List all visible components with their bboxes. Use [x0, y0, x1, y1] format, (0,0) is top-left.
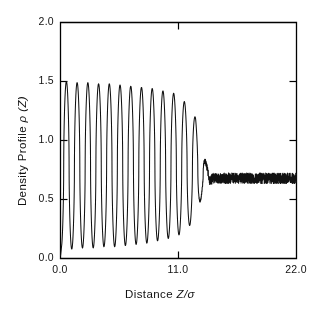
y-axis-label: Density Profile ρ (Z) [16, 66, 28, 236]
x-tick-label-2: 22.0 [276, 263, 316, 275]
x-tick-label-1: 11.0 [158, 263, 198, 275]
y-axis-label-symbol: ρ (Z) [16, 96, 28, 122]
y-tick-label-2: 1.0 [20, 133, 54, 145]
y-tick-label-0: 0.0 [20, 251, 54, 263]
x-axis-label-text: Distance [125, 288, 177, 300]
x-axis-label: Distance Z/σ [80, 288, 240, 300]
x-tick-label-0: 0.0 [40, 263, 80, 275]
y-tick-label-3: 1.5 [20, 74, 54, 86]
y-tick-label-1: 0.5 [20, 192, 54, 204]
y-tick-label-4: 2.0 [20, 15, 54, 27]
density-profile-figure: Density Profile ρ (Z) Distance Z/σ 0.0 0… [0, 0, 321, 311]
x-axis-label-symbol: Z/σ [177, 288, 195, 300]
